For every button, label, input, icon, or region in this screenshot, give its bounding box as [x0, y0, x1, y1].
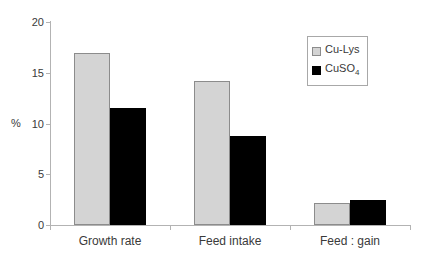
y-tick-label-5: 5	[16, 168, 44, 180]
bar-feed-gain-cu-lys	[314, 203, 350, 225]
legend-swatch-cu-lys	[312, 47, 321, 56]
legend-item-cuso4: CuSO4	[312, 62, 359, 79]
legend-label-cu-lys: Cu-Lys	[325, 43, 359, 60]
legend-item-cu-lys: Cu-Lys	[312, 43, 359, 60]
bar-feed-intake-cuso4	[230, 136, 266, 225]
x-axis-line	[50, 225, 411, 226]
bar-chart: % 05101520 Growth rateFeed intakeFeed : …	[0, 0, 425, 261]
category-label-feed-gain: Feed : gain	[290, 234, 410, 248]
y-tick-label-10: 10	[16, 118, 44, 130]
category-label-growth-rate: Growth rate	[50, 234, 170, 248]
x-tick-mark-0	[50, 226, 51, 230]
legend: Cu-Lys CuSO4	[307, 36, 368, 86]
y-axis-line	[50, 21, 51, 226]
y-tick-label-0: 0	[16, 219, 44, 231]
legend-label-cu-lys-text: Cu-Lys	[325, 43, 359, 55]
bar-feed-intake-cu-lys	[194, 81, 230, 225]
legend-swatch-cuso4	[312, 66, 321, 75]
bar-growth-rate-cuso4	[110, 108, 146, 225]
y-tick-label-20: 20	[16, 16, 44, 28]
legend-label-cuso4-subscript: 4	[355, 68, 359, 77]
legend-label-cuso4-text: CuSO	[325, 62, 355, 74]
legend-label-cuso4: CuSO4	[325, 62, 359, 79]
y-tick-label-15: 15	[16, 67, 44, 79]
x-tick-mark-2	[290, 226, 291, 230]
category-label-feed-intake: Feed intake	[170, 234, 290, 248]
x-tick-mark-3	[410, 226, 411, 230]
bar-feed-gain-cuso4	[350, 200, 386, 225]
bar-growth-rate-cu-lys	[74, 53, 110, 225]
x-tick-mark-1	[170, 226, 171, 230]
